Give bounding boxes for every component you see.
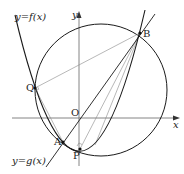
- point-B: [138, 31, 141, 34]
- diagram-canvas: y=f(x) y=g(x) y x O B Q A P: [0, 0, 184, 174]
- g-line-label: y=g(x): [11, 155, 46, 166]
- origin-label: O: [71, 107, 79, 118]
- y-axis-label: y: [71, 9, 78, 20]
- point-A: [61, 140, 64, 143]
- segment-QA: [35, 88, 63, 142]
- point-P-label: P: [73, 150, 80, 161]
- f-curve-label: y=f(x): [14, 11, 46, 22]
- segment-BP: [80, 33, 140, 149]
- point-A-label: A: [53, 136, 62, 147]
- parabola-f: [15, 10, 145, 151]
- chords: [35, 33, 140, 149]
- x-axis-label: x: [173, 119, 179, 130]
- point-Q-label: Q: [26, 82, 34, 93]
- point-B-label: B: [143, 28, 150, 39]
- segment-BQ: [35, 33, 140, 88]
